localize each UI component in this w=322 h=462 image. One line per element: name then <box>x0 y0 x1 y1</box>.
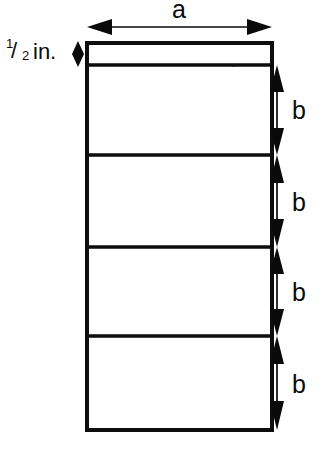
dimension-width-a: a <box>87 0 272 35</box>
arrowhead-left-a <box>87 19 112 35</box>
arrowhead-right-a <box>247 19 272 35</box>
dimension-section-3-b: b <box>270 247 306 336</box>
diagram-canvas: a 1 / 2 in. b b <box>0 0 322 462</box>
dimension-section-4-b: b <box>270 336 306 430</box>
dimension-section-1-b: b <box>270 65 306 155</box>
half-inch-slash: / <box>11 38 18 63</box>
dimension-strip-half-inch: 1 / 2 in. <box>6 36 84 67</box>
half-inch-unit: in. <box>33 39 56 64</box>
dimension-section-2-b: b <box>270 155 306 247</box>
arrowhead-up-half-inch <box>72 41 84 54</box>
dimension-diagram: a 1 / 2 in. b b <box>0 0 322 462</box>
dimension-label-b-3: b <box>292 278 306 306</box>
dimension-label-b-1: b <box>292 96 306 124</box>
dimension-label-a: a <box>172 0 186 23</box>
dimension-label-b-2: b <box>292 188 306 216</box>
half-inch-denominator: 2 <box>22 48 29 63</box>
arrowhead-down-half-inch <box>72 54 84 67</box>
sheet-outline <box>87 43 272 430</box>
dimension-label-b-4: b <box>292 370 306 398</box>
